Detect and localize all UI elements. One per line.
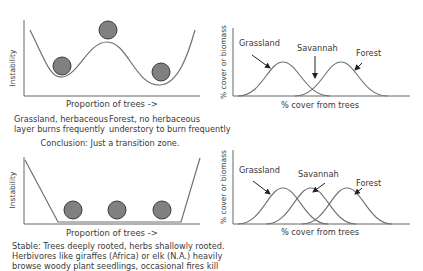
stable-caption-line1: Stable: Trees deeply rooted, herbs shall… bbox=[12, 241, 225, 251]
bottom-right-panel bbox=[233, 150, 410, 224]
ball-unstable-savannah bbox=[99, 21, 117, 39]
top-left-panel bbox=[24, 20, 200, 96]
grassland-curve bbox=[238, 188, 328, 224]
grassland-note-line2: layer burns frequently bbox=[14, 124, 105, 134]
bottom-left-xlabel: Proportion of trees -> bbox=[24, 228, 200, 238]
top-left-ylabel: Instability bbox=[8, 43, 18, 93]
top-right-xlabel: % cover from trees bbox=[270, 100, 370, 110]
savannah-curve bbox=[266, 188, 356, 224]
label-forest: Forest bbox=[356, 178, 381, 188]
grassland-note-line1: Grassland, herbaceous bbox=[14, 114, 108, 124]
top-left-xlabel: Proportion of trees -> bbox=[24, 99, 200, 109]
grassland-curve bbox=[238, 62, 330, 96]
forest-note-line1: Forest, no herbaceous bbox=[109, 114, 200, 124]
bottom-left-ylabel: Instability bbox=[8, 165, 18, 215]
grassland-arrow bbox=[252, 55, 270, 68]
forest-arrow bbox=[355, 188, 362, 194]
stable-caption-line2: Herbivores like giraffes (Africa) or elk… bbox=[12, 251, 222, 261]
forest-curve bbox=[295, 62, 388, 96]
ball-grassland bbox=[53, 57, 71, 75]
bottom-right-xlabel: % cover from trees bbox=[270, 227, 370, 237]
forest-curve bbox=[302, 188, 392, 224]
stable-caption-line3: browse woody plant seedlings, occasional… bbox=[12, 261, 218, 271]
forest-note-line2: understory to burn frequently bbox=[109, 124, 231, 134]
bottom-left-panel bbox=[24, 157, 200, 224]
label-forest: Forest bbox=[356, 48, 381, 58]
bottom-right-ylabel: % cover or biomass bbox=[219, 147, 229, 227]
ball-middle bbox=[108, 201, 126, 219]
bottom-right-axes bbox=[233, 150, 410, 224]
label-savannah: Savannah bbox=[298, 169, 339, 179]
ball-left bbox=[64, 201, 82, 219]
label-savannah: Savannah bbox=[297, 43, 338, 53]
conclusion-text: Conclusion: Just a transition zone. bbox=[20, 138, 200, 148]
forest-arrow bbox=[355, 63, 362, 70]
savannah-arrow bbox=[313, 183, 325, 192]
label-grassland: Grassland bbox=[239, 165, 280, 175]
label-grassland: Grassland bbox=[239, 38, 280, 48]
ball-right bbox=[153, 201, 171, 219]
grassland-arrow bbox=[253, 181, 270, 194]
ball-forest bbox=[152, 63, 170, 81]
top-right-ylabel: % cover or biomass bbox=[219, 22, 229, 102]
